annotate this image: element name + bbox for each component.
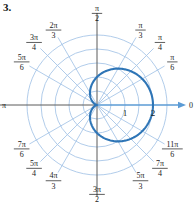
radial-tick-label: 1 — [123, 108, 128, 118]
grid-ray-extension — [29, 66, 37, 71]
angle-label-denominator: 3 — [52, 31, 56, 40]
grid-ray-extension — [157, 66, 165, 71]
angle-tick-label: 0 — [189, 101, 193, 110]
radial-tick-label: 2 — [151, 108, 156, 118]
angle-label-numerator: π — [95, 4, 99, 13]
polar-axis-arrowhead — [178, 102, 186, 108]
angle-tick-label: 2π3 — [46, 21, 62, 40]
angle-tick-label: 5π4 — [26, 159, 42, 178]
angle-label-numerator: π — [158, 33, 162, 42]
angle-label-denominator: 4 — [158, 169, 162, 178]
angle-label-text: π — [2, 101, 6, 110]
angle-tick-label: 5π3 — [133, 171, 149, 190]
angle-label-numerator: 5π — [18, 53, 26, 62]
angle-label-denominator: 3 — [52, 182, 56, 191]
angle-label-numerator: π — [138, 21, 142, 30]
angle-label-numerator: 5π — [136, 171, 144, 180]
angle-label-denominator: 3 — [139, 182, 143, 191]
angle-tick-label: π2 — [92, 4, 102, 23]
grid-ray-extension — [58, 165, 63, 173]
angle-label-denominator: 2 — [95, 195, 99, 204]
angle-tick-label: 3π4 — [26, 33, 42, 52]
angle-tick-label: π4 — [155, 33, 165, 52]
grid-ray-extension — [132, 165, 137, 173]
angle-label-denominator: 3 — [139, 31, 143, 40]
angle-label-text: 0 — [189, 101, 193, 110]
angle-tick-label: 7π4 — [152, 159, 168, 178]
angle-label-numerator: 3π — [30, 33, 38, 42]
angle-label-denominator: 2 — [95, 14, 99, 23]
angle-label-denominator: 6 — [170, 150, 174, 159]
angle-label-denominator: 6 — [20, 63, 24, 72]
grid-ray-extension — [157, 140, 165, 145]
angle-tick-label: 5π6 — [14, 53, 30, 72]
angle-label-numerator: 2π — [49, 21, 57, 30]
angle-label-numerator: 7π — [18, 140, 26, 149]
angle-label-denominator: 6 — [170, 63, 174, 72]
angle-label-numerator: 4π — [49, 171, 57, 180]
angle-tick-label: 3π2 — [89, 185, 105, 204]
angle-label-denominator: 4 — [32, 169, 36, 178]
angle-label-numerator: 7π — [156, 159, 164, 168]
angle-tick-label: π — [2, 101, 6, 110]
angle-label-numerator: 3π — [93, 185, 101, 194]
angle-label-denominator: 4 — [32, 43, 36, 52]
angle-label-numerator: π — [170, 53, 174, 62]
angle-tick-label: π3 — [135, 21, 145, 40]
grid-ray-extension — [29, 140, 37, 145]
angle-tick-label: 7π6 — [14, 140, 30, 159]
grid-ray-extension — [132, 37, 137, 45]
angle-tick-label: π6 — [167, 53, 177, 72]
angle-tick-label: 11π6 — [162, 140, 183, 159]
angle-label-denominator: 4 — [158, 43, 162, 52]
angle-label-numerator: 5π — [30, 159, 38, 168]
polar-graph-figure: 12 0π6π4π3π22π33π45π6π7π65π44π33π25π37π4… — [0, 0, 194, 204]
angle-label-denominator: 6 — [20, 150, 24, 159]
angle-label-numerator: 11π — [166, 140, 178, 149]
angle-tick-label: 4π3 — [46, 171, 62, 190]
grid-ray-extension — [58, 37, 63, 45]
